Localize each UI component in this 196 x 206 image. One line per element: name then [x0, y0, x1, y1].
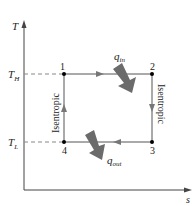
t-s-diagram: T s TH TL 1 2 3 4 Isentropic Isentropic …	[0, 0, 196, 206]
cycle-path	[64, 74, 152, 142]
arrow-up-icon	[61, 104, 67, 112]
y-axis-label: T	[12, 20, 19, 32]
q-out-label: qout	[107, 154, 123, 168]
q-in-label: qin	[114, 50, 125, 64]
state-label-4: 4	[62, 145, 67, 156]
state-label-3: 3	[150, 145, 155, 156]
isentropic-label-left: Isentropic	[50, 92, 61, 133]
tl-label: TL	[8, 136, 18, 151]
arrow-right-icon	[96, 71, 104, 77]
state-point-3	[150, 140, 154, 144]
arrow-down-icon	[149, 104, 155, 112]
heat-in-arrow-icon	[113, 63, 136, 93]
x-axis-label: s	[186, 194, 190, 205]
arrow-left-icon	[113, 139, 121, 145]
th-label: TH	[8, 68, 20, 83]
y-axis-arrowhead	[22, 20, 27, 28]
state-point-2	[150, 72, 154, 76]
state-point-1	[62, 72, 66, 76]
state-point-4	[62, 140, 66, 144]
isentropic-label-right: Isentropic	[156, 84, 167, 125]
state-label-1: 1	[60, 61, 65, 72]
state-label-2: 2	[150, 61, 155, 72]
x-axis-arrowhead	[184, 188, 192, 193]
heat-out-arrow-icon	[85, 130, 105, 160]
